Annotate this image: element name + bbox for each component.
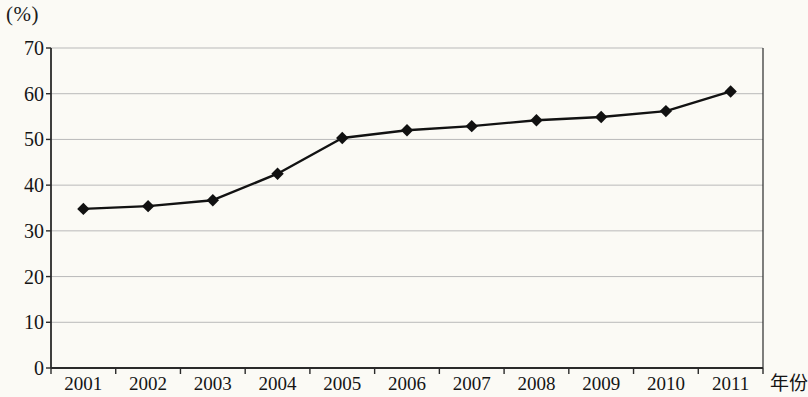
data-point-markers <box>77 85 737 215</box>
x-axis-tick-label: 2009 <box>582 374 620 393</box>
x-axis-tick-label: 2002 <box>129 374 167 393</box>
x-axis-tick-label: 2006 <box>388 374 426 393</box>
x-axis-tick-label: 2005 <box>323 374 361 393</box>
x-axis-tick-label: 2010 <box>647 374 685 393</box>
x-axis-tick-label: 2004 <box>259 374 297 393</box>
x-axis-tick-label: 2011 <box>712 374 749 393</box>
x-axis-title: 年份 <box>770 374 808 393</box>
x-axis-tick-label: 2007 <box>453 374 491 393</box>
data-series-line <box>83 91 730 208</box>
x-axis-tick-label: 2008 <box>517 374 555 393</box>
plot-frame <box>46 48 763 368</box>
x-axis-tick-label: 2003 <box>194 374 232 393</box>
gridlines <box>51 48 763 322</box>
x-axis-tick-label: 2001 <box>64 374 102 393</box>
